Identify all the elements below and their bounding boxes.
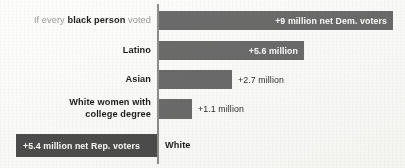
category-label-suffix: voted xyxy=(125,15,151,25)
value-label-white-women-college: +1.1 million xyxy=(198,104,244,114)
category-label-line1: White women with xyxy=(69,97,151,107)
category-label-line2: college degree xyxy=(85,109,151,119)
bar-asian xyxy=(159,70,232,89)
chart-row-asian: Asian +2.7 million xyxy=(0,70,405,89)
bar-white: +5.4 million net Rep. voters xyxy=(16,134,157,157)
chart-row-latino: Latino +5.6 million xyxy=(0,41,405,60)
category-label-white-women-college: White women with college degree xyxy=(36,97,151,120)
value-label-asian: +2.7 million xyxy=(238,75,284,85)
bar-chart: If every black person voted +9 million n… xyxy=(0,0,405,168)
value-label-latino: +5.6 million xyxy=(249,46,298,56)
value-label-black-person: +9 million net Dem. voters xyxy=(275,16,387,26)
value-label-white: +5.4 million net Rep. voters xyxy=(23,141,140,151)
category-label-bold: black person xyxy=(67,15,125,25)
chart-row-black-person: If every black person voted +9 million n… xyxy=(0,11,405,30)
chart-row-white: +5.4 million net Rep. voters White xyxy=(0,134,405,157)
bar-black-person: +9 million net Dem. voters xyxy=(159,11,393,30)
category-label-prefix: If every xyxy=(34,15,68,25)
chart-row-white-women-college: White women with college degree +1.1 mil… xyxy=(0,99,405,119)
category-label-white: White xyxy=(165,140,191,152)
category-label-asian: Asian xyxy=(125,74,151,86)
bar-latino: +5.6 million xyxy=(159,41,304,60)
category-label-black-person: If every black person voted xyxy=(34,15,151,27)
category-label-latino: Latino xyxy=(123,45,151,57)
bar-white-women-college xyxy=(159,99,192,119)
